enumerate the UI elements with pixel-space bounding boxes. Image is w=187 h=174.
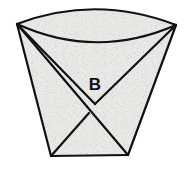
paper-cup-diagram: B: [0, 0, 187, 174]
flap-label-b: B: [84, 74, 106, 96]
cup-bottom-edge: [51, 155, 128, 156]
